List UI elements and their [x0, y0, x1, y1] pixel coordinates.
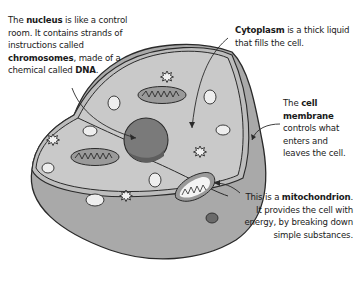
- mitochondrion-left: [71, 149, 119, 166]
- mitochondrion-label: This is a mitochondrion. It provides the…: [241, 191, 353, 241]
- nucleus-label: The nucleus is like a control room. It c…: [8, 14, 138, 77]
- label-text: The: [8, 15, 26, 25]
- label-text: This is a: [245, 192, 281, 202]
- cytoplasm-term: Cytoplasm: [235, 25, 285, 35]
- cytoplasm-label: Cytoplasm is a thick liquid that fills t…: [235, 24, 355, 49]
- label-text: .: [96, 65, 99, 75]
- mitochondrion-term: mitochondrion: [282, 192, 351, 202]
- label-text: The: [283, 98, 301, 108]
- nucleus-term: nucleus: [26, 15, 62, 25]
- lower-organelle: [206, 213, 218, 223]
- mitochondrion-top: [138, 87, 186, 104]
- label-text: controls what enters and leaves the cell…: [283, 123, 345, 158]
- chromosomes-term: chromosomes: [8, 53, 73, 63]
- nucleus: [124, 118, 168, 162]
- dna-term: DNA: [75, 65, 96, 75]
- cell-membrane-label: The cell membrane controls what enters a…: [283, 97, 353, 160]
